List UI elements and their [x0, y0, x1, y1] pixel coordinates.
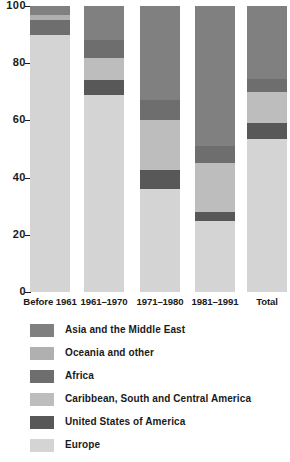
- plot-area: [30, 6, 286, 292]
- bar-segment: [84, 80, 124, 94]
- legend-item-label: Africa: [65, 369, 94, 383]
- bar-segment: [247, 79, 287, 92]
- bar-segment: [247, 123, 287, 139]
- bar-segment: [140, 189, 180, 292]
- legend-item: Asia and the Middle East: [0, 322, 290, 345]
- bar-segment: [195, 146, 235, 163]
- y-axis-tick-label: 20: [0, 229, 26, 240]
- y-axis-tick-label: 80: [0, 57, 26, 68]
- bar-segment: [195, 163, 235, 212]
- legend-item-label: Caribbean, South and Central America: [65, 392, 251, 406]
- y-axis-tick-label: 100: [0, 0, 26, 11]
- bar-segment: [247, 6, 287, 79]
- bar-segment: [247, 92, 287, 123]
- bar-segment: [140, 120, 180, 170]
- x-axis-label-4: Total: [235, 296, 290, 307]
- legend-item: United States of America: [0, 414, 290, 437]
- chart-legend: Asia and the Middle EastOceania and othe…: [0, 322, 290, 460]
- y-axis-tick-label: 40: [0, 172, 26, 183]
- legend-swatch-icon: [30, 347, 54, 360]
- bar-segment: [84, 6, 124, 40]
- bar-segment: [84, 40, 124, 57]
- bar-0: [30, 6, 70, 292]
- bar-segment: [195, 6, 235, 146]
- bar-segment: [84, 95, 124, 292]
- x-axis-label-1: 1961–1970: [72, 296, 136, 307]
- legend-item-label: United States of America: [65, 415, 185, 429]
- legend-item-label: Asia and the Middle East: [65, 323, 185, 337]
- legend-item-label: Europe: [65, 438, 100, 452]
- bar-segment: [140, 6, 180, 100]
- bar-segment: [30, 35, 70, 292]
- bar-segment: [30, 20, 70, 34]
- legend-item-label: Oceania and other: [65, 346, 154, 360]
- y-axis-tick: [25, 292, 30, 293]
- y-axis-labels: 100806040200: [0, 0, 26, 292]
- y-axis-tick-label: 60: [0, 114, 26, 125]
- bar-segment: [195, 221, 235, 293]
- legend-swatch-icon: [30, 393, 54, 406]
- legend-swatch-icon: [30, 439, 54, 452]
- legend-item: Oceania and other: [0, 345, 290, 368]
- legend-item: Caribbean, South and Central America: [0, 391, 290, 414]
- bar-4: [247, 6, 287, 292]
- bar-segment: [195, 212, 235, 221]
- bar-segment: [140, 100, 180, 120]
- legend-item: Europe: [0, 437, 290, 460]
- legend-swatch-icon: [30, 370, 54, 383]
- bar-1: [84, 6, 124, 292]
- legend-swatch-icon: [30, 324, 54, 337]
- legend-item: Africa: [0, 368, 290, 391]
- chart-root: 100806040200 Before 19611961–19701971–19…: [0, 0, 290, 462]
- bar-3: [195, 6, 235, 292]
- legend-swatch-icon: [30, 416, 54, 429]
- bar-segment: [30, 6, 70, 15]
- bar-segment: [247, 139, 287, 292]
- bar-segment: [84, 58, 124, 81]
- bar-segment: [140, 170, 180, 189]
- bar-2: [140, 6, 180, 292]
